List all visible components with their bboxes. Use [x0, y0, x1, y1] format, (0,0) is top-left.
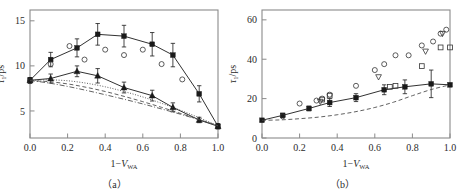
- x-tick-label: 0.6: [137, 142, 150, 153]
- y-axis-title: τ1/ps: [0, 65, 7, 84]
- svg-text:τ1/ps: τ1/ps: [228, 65, 239, 84]
- panel-b-plot: 0.00.20.40.60.81.00204060τ1/ps1−VWA: [228, 0, 457, 176]
- y-tick-label: 0: [252, 133, 257, 144]
- x-tick-label: 0.4: [99, 142, 112, 153]
- x-tick-label: 0.0: [256, 142, 269, 153]
- y-tick-label: 5: [20, 106, 25, 117]
- x-tick-label: 1.0: [444, 142, 457, 153]
- x-tick-label: 0.2: [61, 142, 74, 153]
- marker-filled-square: [402, 84, 407, 89]
- marker-filled-square: [382, 87, 387, 92]
- x-tick-label: 0.2: [293, 142, 306, 153]
- svg-text:τ1/ps: τ1/ps: [0, 65, 7, 84]
- x-axis-title: 1−VWA: [111, 158, 138, 170]
- plot-frame: [262, 10, 450, 138]
- marker-filled-square: [429, 81, 434, 86]
- marker-filled-square: [122, 34, 127, 39]
- marker-filled-square: [170, 53, 175, 58]
- marker-filled-square: [150, 42, 155, 47]
- panel-b: 0.00.20.40.60.81.00204060τ1/ps1−VWA （b）: [228, 0, 457, 196]
- panel-a-plot: 0.00.20.40.60.81.051015τ1/ps1−VWA: [0, 0, 229, 176]
- figure-container: 0.00.20.40.60.81.051015τ1/ps1−VWA （a） 0.…: [0, 0, 457, 196]
- y-tick-label: 20: [247, 93, 257, 104]
- x-tick-label: 0.4: [331, 142, 344, 153]
- x-tick-label: 1.0: [212, 142, 225, 153]
- y-tick-label: 60: [247, 14, 257, 25]
- x-tick-label: 0.8: [406, 142, 419, 153]
- y-axis-title: τ1/ps: [228, 65, 239, 84]
- marker-filled-square: [75, 45, 80, 50]
- marker-filled-square: [95, 32, 100, 37]
- panel-a-caption: （a）: [0, 176, 229, 191]
- marker-filled-square: [307, 106, 312, 111]
- marker-filled-square: [327, 100, 332, 105]
- y-tick-label: 15: [15, 15, 25, 26]
- x-axis-title: 1−VWA: [343, 158, 370, 170]
- x-tick-label: 0.0: [24, 142, 37, 153]
- marker-filled-square: [197, 91, 202, 96]
- y-tick-label: 10: [15, 60, 25, 71]
- x-tick-label: 0.8: [174, 142, 187, 153]
- panel-b-caption: （b）: [228, 176, 457, 191]
- panel-a: 0.00.20.40.60.81.051015τ1/ps1−VWA （a）: [0, 0, 229, 196]
- marker-filled-square: [354, 95, 359, 100]
- y-tick-label: 40: [247, 54, 257, 65]
- x-tick-label: 0.6: [369, 142, 382, 153]
